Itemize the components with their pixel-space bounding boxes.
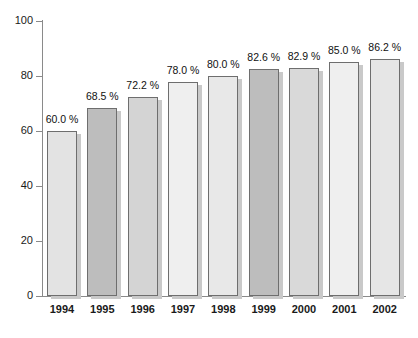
x-axis-tick-label: 1994 bbox=[39, 303, 85, 315]
bar[interactable] bbox=[249, 69, 279, 296]
bar-group: 82.9 % bbox=[289, 21, 329, 296]
x-axis-tick-label: 2000 bbox=[281, 303, 327, 315]
x-axis-tick-label: 2002 bbox=[362, 303, 408, 315]
x-axis-tick-label: 1997 bbox=[160, 303, 206, 315]
bar-group: 72.2 % bbox=[128, 21, 168, 296]
bar[interactable] bbox=[208, 76, 238, 296]
bar-chart: 020406080100 60.0 %68.5 %72.2 %78.0 %80.… bbox=[0, 0, 418, 338]
bar-value-label: 60.0 % bbox=[38, 113, 86, 125]
x-axis-tick-label: 1999 bbox=[241, 303, 287, 315]
y-axis-tick-label: 80 bbox=[0, 69, 33, 81]
bar-value-label: 86.2 % bbox=[361, 41, 409, 53]
plot-area: 60.0 %68.5 %72.2 %78.0 %80.0 %82.6 %82.9… bbox=[42, 21, 405, 296]
bar-group: 85.0 % bbox=[329, 21, 369, 296]
bar-group: 68.5 % bbox=[87, 21, 127, 296]
bar[interactable] bbox=[289, 68, 319, 296]
y-axis-tick bbox=[36, 296, 43, 297]
bar[interactable] bbox=[87, 108, 117, 296]
bar[interactable] bbox=[128, 97, 158, 296]
x-axis-tick-label: 1996 bbox=[120, 303, 166, 315]
y-axis-tick-label: 20 bbox=[0, 234, 33, 246]
bar[interactable] bbox=[47, 131, 77, 296]
bar[interactable] bbox=[370, 59, 400, 296]
bar-group: 60.0 % bbox=[47, 21, 87, 296]
x-axis-tick-label: 1998 bbox=[200, 303, 246, 315]
bar-group: 82.6 % bbox=[249, 21, 289, 296]
y-axis-tick-label: 40 bbox=[0, 179, 33, 191]
y-axis-tick-label: 100 bbox=[0, 14, 33, 26]
bar-value-label: 72.2 % bbox=[119, 79, 167, 91]
y-axis-tick-label: 60 bbox=[0, 124, 33, 136]
bar[interactable] bbox=[168, 82, 198, 297]
bar-group: 86.2 % bbox=[370, 21, 410, 296]
y-axis-tick-label: 0 bbox=[0, 289, 33, 301]
x-axis-tick-label: 2001 bbox=[321, 303, 367, 315]
bar[interactable] bbox=[329, 62, 359, 296]
x-axis-tick-label: 1995 bbox=[79, 303, 125, 315]
